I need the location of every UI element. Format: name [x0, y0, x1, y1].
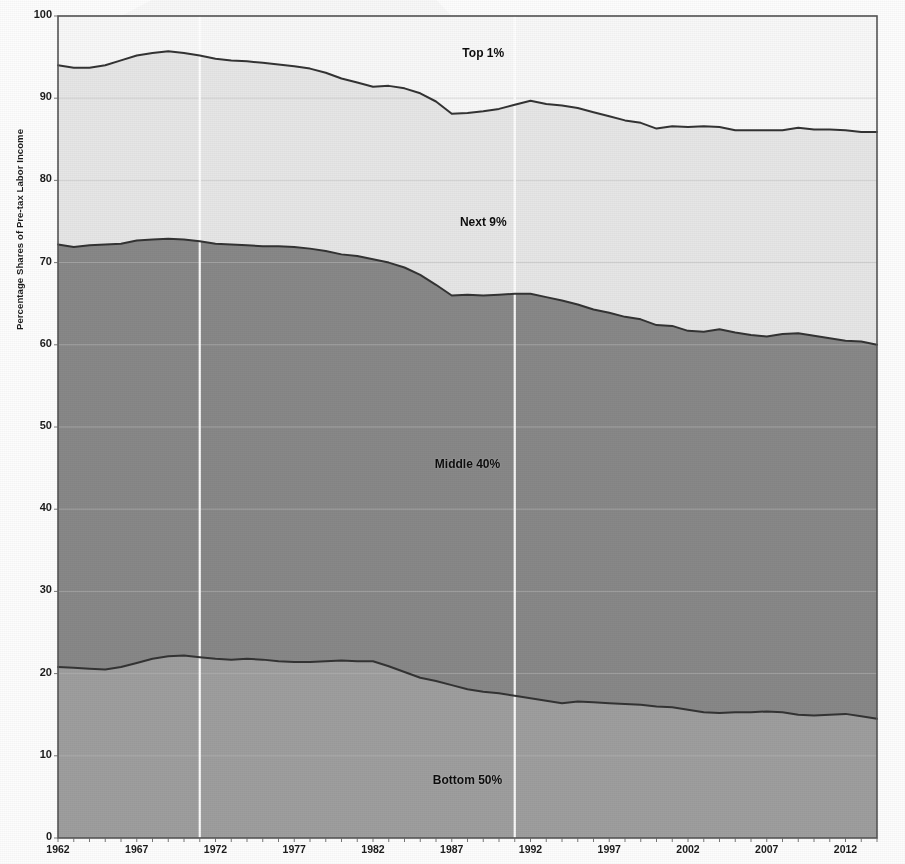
y-tick-label: 20 — [10, 666, 52, 678]
y-tick-label: 100 — [10, 8, 52, 20]
x-tick-label: 1972 — [204, 843, 227, 855]
y-tick-label: 30 — [10, 583, 52, 595]
x-tick-label: 1987 — [440, 843, 463, 855]
x-tick-label: 1962 — [46, 843, 69, 855]
y-tick-label: 0 — [10, 830, 52, 842]
y-axis-tick-labels: 0102030405060708090100 — [6, 0, 52, 864]
y-tick-label: 80 — [10, 172, 52, 184]
chart-figure: Percentage Shares of Pre-tax Labor Incom… — [0, 0, 905, 864]
x-tick-label: 1967 — [125, 843, 148, 855]
y-tick-label: 70 — [10, 255, 52, 267]
x-tick-label: 1982 — [361, 843, 384, 855]
series-label-middle-40: Middle 40% — [435, 457, 500, 471]
y-tick-label: 50 — [10, 419, 52, 431]
x-tick-label: 2007 — [755, 843, 778, 855]
y-tick-label: 10 — [10, 748, 52, 760]
y-tick-label: 90 — [10, 90, 52, 102]
series-label-next-9: Next 9% — [460, 215, 507, 229]
y-tick-label: 40 — [10, 501, 52, 513]
y-tick-label: 60 — [10, 337, 52, 349]
series-label-top-1: Top 1% — [462, 46, 504, 60]
x-tick-label: 1992 — [519, 843, 542, 855]
x-tick-label: 1997 — [598, 843, 621, 855]
series-label-bottom-50: Bottom 50% — [433, 773, 502, 787]
stacked-area-chart — [0, 0, 905, 864]
x-tick-label: 1977 — [283, 843, 306, 855]
x-tick-label: 2012 — [834, 843, 857, 855]
x-tick-label: 2002 — [676, 843, 699, 855]
